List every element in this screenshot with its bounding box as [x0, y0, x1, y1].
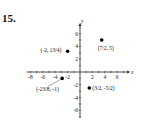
point-label: (3/2, -5/2) [92, 85, 114, 92]
coordinate-plane: xy-8-6-4-2246-6-4-2246(-2, 13/4)(7/2, 5)… [0, 0, 143, 129]
y-axis-label: y [80, 18, 84, 24]
data-point [66, 49, 70, 53]
point-label: (-23/8, -1) [36, 86, 59, 93]
y-tick-label: -2 [73, 82, 78, 88]
x-tick-label: 6 [116, 74, 119, 80]
y-tick-label: -4 [73, 95, 78, 101]
data-point [88, 86, 92, 90]
x-tick-label: 4 [103, 74, 106, 80]
point-label: (7/2, 5) [98, 45, 114, 52]
x-axis-label: x [130, 69, 134, 75]
x-tick-label: -2 [65, 74, 70, 80]
data-point [60, 77, 64, 81]
y-tick-label: 2 [75, 56, 78, 62]
x-tick-label: -4 [53, 74, 58, 80]
x-tick-label: -8 [28, 74, 33, 80]
y-tick-label: 6 [75, 31, 78, 37]
point-label: (-2, 13/4) [41, 47, 62, 54]
data-point [100, 38, 104, 42]
y-tick-label: -6 [73, 107, 78, 113]
x-tick-label: -6 [41, 74, 46, 80]
x-arrow-icon [127, 71, 130, 74]
y-tick-label: 4 [75, 43, 78, 49]
x-tick-label: 2 [91, 74, 94, 80]
